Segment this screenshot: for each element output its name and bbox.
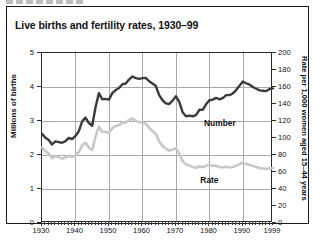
left-tick-3: 3 xyxy=(0,116,34,125)
right-tick-160: 160 xyxy=(278,82,291,91)
x-tick-1970: 1970 xyxy=(166,226,183,235)
x-tick-1950: 1950 xyxy=(100,226,117,235)
left-tick-5: 5 xyxy=(0,48,34,57)
plot-area xyxy=(41,52,272,222)
series-label-number: Number xyxy=(204,118,236,128)
x-tick-1940: 1940 xyxy=(66,226,83,235)
x-tick-1960: 1960 xyxy=(133,226,150,235)
left-tick-1: 1 xyxy=(0,184,34,193)
right-axis-title: Rate per 1,000 women aged 15–44 years xyxy=(300,56,309,201)
x-tick-1980: 1980 xyxy=(200,226,217,235)
x-tick-1999: 1999 xyxy=(264,226,281,235)
right-tick-180: 180 xyxy=(278,65,291,74)
series-lines xyxy=(42,53,273,223)
right-tick-40: 40 xyxy=(278,184,286,193)
chart-title: Live births and fertility rates, 1930–99 xyxy=(15,19,198,31)
left-tick-4: 4 xyxy=(0,82,34,91)
right-tick-140: 140 xyxy=(278,99,291,108)
right-tick-60: 60 xyxy=(278,167,286,176)
line-number xyxy=(42,76,273,144)
x-tick-1990: 1990 xyxy=(233,226,250,235)
chart-figure: Live births and fertility rates, 1930–99… xyxy=(0,0,322,245)
cropped-caption-sliver xyxy=(6,0,86,4)
line-rate xyxy=(42,119,273,169)
right-tick-100: 100 xyxy=(278,133,291,142)
right-tick-120: 120 xyxy=(278,116,291,125)
left-tick-2: 2 xyxy=(0,150,34,159)
x-tick-1930: 1930 xyxy=(33,226,50,235)
left-tick-0: 0 xyxy=(0,218,34,227)
right-tick-20: 20 xyxy=(278,201,286,210)
series-label-rate: Rate xyxy=(200,175,218,185)
right-tick-80: 80 xyxy=(278,150,286,159)
right-tick-200: 200 xyxy=(278,48,291,57)
